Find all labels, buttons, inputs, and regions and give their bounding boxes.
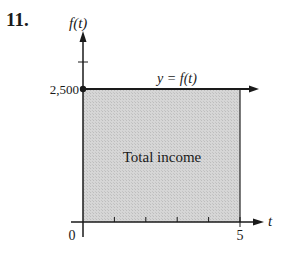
start-point bbox=[80, 86, 86, 92]
curve-label: y = f(t) bbox=[155, 71, 197, 87]
y-axis-label: f(t) bbox=[69, 15, 87, 32]
x-origin-label: 0 bbox=[69, 228, 76, 243]
x-axis-arrow-icon bbox=[253, 219, 264, 226]
chart: f(t) 2,500 y = f(t) Total income 0 5 t bbox=[0, 0, 291, 259]
x-end-label: 5 bbox=[237, 228, 244, 243]
y-axis-arrow-icon bbox=[80, 31, 87, 42]
function-arrow-icon bbox=[249, 86, 259, 93]
x-axis-label: t bbox=[268, 213, 273, 229]
y-value-label: 2,500 bbox=[50, 82, 79, 97]
region-label: Total income bbox=[123, 149, 202, 165]
